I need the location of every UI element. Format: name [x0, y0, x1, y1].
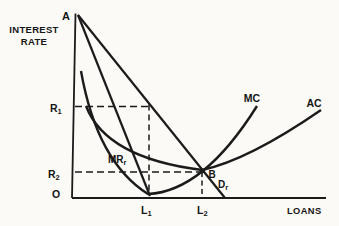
label-r1-sub: 1 [58, 107, 62, 116]
label-mr-main: MR [108, 154, 124, 165]
y-axis-label-line1: INTEREST [9, 24, 58, 35]
label-l2-sub: 2 [203, 209, 207, 218]
label-r2-sub: 2 [56, 173, 60, 182]
label-b: B [209, 169, 216, 180]
label-ac: AC [306, 97, 322, 109]
label-a: A [62, 10, 70, 22]
label-r2: R2 [48, 168, 60, 183]
label-d-sub: r [225, 183, 228, 192]
y-axis-label-line2: RATE [21, 36, 47, 47]
label-mc: MC [244, 92, 261, 104]
origin-label: O [52, 188, 60, 200]
diagram-canvas: A INTEREST RATE R1 R2 O MRr MC AC B Dr L… [0, 0, 339, 226]
point-b-dot [200, 169, 205, 174]
x-axis-label: LOANS [287, 206, 322, 216]
y-axis-line [72, 14, 76, 199]
economics-diagram: A INTEREST RATE R1 R2 O MRr MC AC B Dr L… [0, 0, 339, 226]
label-l1: L1 [141, 204, 152, 219]
label-l2: L2 [197, 204, 208, 219]
label-r1: R1 [50, 102, 62, 117]
label-l1-sub: 1 [147, 209, 151, 218]
label-mr-sub: r [124, 158, 127, 167]
label-d-main: D [218, 179, 225, 190]
